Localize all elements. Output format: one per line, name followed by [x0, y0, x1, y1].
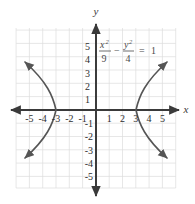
eq-numerator-y-exp: 2	[129, 38, 133, 45]
hyperbola-figure: -5 -4 -3 -2 -1 1 2 3 4 5 5 4 3 2 1 -1 -2…	[0, 0, 195, 204]
x-tick-labels: -5 -4 -3 -2 -1 1 2 3 4 5	[25, 113, 165, 124]
y-axis-label: y	[93, 5, 99, 17]
y-tick--4: -4	[85, 158, 93, 169]
x-tick--5: -5	[25, 113, 33, 124]
x-tick-5: 5	[160, 113, 165, 124]
x-tick-3: 3	[133, 113, 138, 124]
y-tick-labels: 5 4 3 2 1 -1 -2 -3 -4 -5	[85, 41, 93, 182]
x-tick-1: 1	[107, 113, 112, 124]
y-tick-5: 5	[85, 41, 90, 52]
x-tick--2: -2	[65, 113, 73, 124]
y-tick-3: 3	[85, 68, 90, 79]
y-tick--2: -2	[85, 131, 93, 142]
x-tick--4: -4	[39, 113, 47, 124]
y-tick--1: -1	[85, 118, 93, 129]
eq-denominator-9: 9	[102, 53, 107, 64]
y-tick--3: -3	[85, 145, 93, 156]
eq-numerator-x: x	[99, 39, 105, 50]
eq-equals-sign: =	[139, 45, 145, 56]
eq-rhs-value: 1	[151, 45, 156, 56]
x-tick-4: 4	[147, 113, 152, 124]
eq-operator-minus: −	[114, 45, 120, 56]
x-axis-label: x	[183, 103, 189, 115]
equation-annotation: x 2 9 − y 2 4 = 1	[99, 38, 156, 64]
coordinate-plane-svg: -5 -4 -3 -2 -1 1 2 3 4 5 5 4 3 2 1 -1 -2…	[0, 0, 195, 204]
x-tick--3: -3	[52, 113, 60, 124]
y-tick-1: 1	[85, 94, 90, 105]
y-tick-4: 4	[85, 54, 90, 65]
eq-denominator-4: 4	[126, 53, 131, 64]
y-tick--5: -5	[85, 171, 93, 182]
x-tick-2: 2	[120, 113, 125, 124]
y-tick-2: 2	[85, 81, 90, 92]
